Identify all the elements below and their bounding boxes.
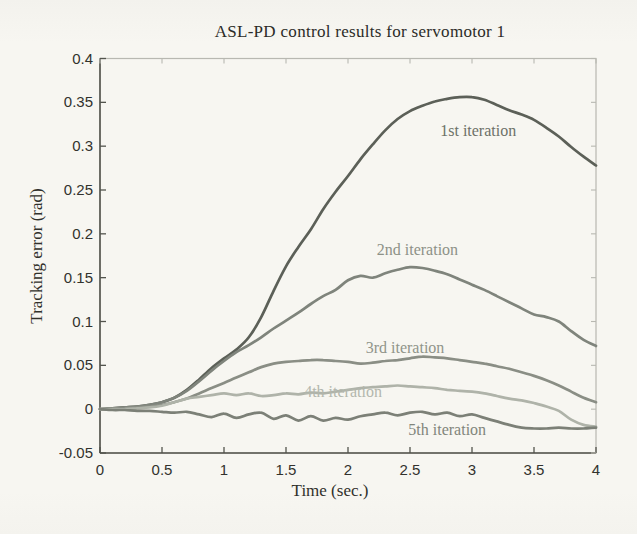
x-tick-label: 4 (592, 461, 600, 478)
x-tick-label: 0.5 (152, 461, 173, 478)
x-axis-label: Time (sec.) (292, 481, 369, 500)
x-tick-label: 3 (468, 461, 476, 478)
y-tick-label: 0.2 (72, 225, 93, 242)
series-label-2nd-iteration: 2nd iteration (377, 241, 458, 258)
y-tick-label: -0.05 (59, 444, 93, 461)
y-tick-label: 0 (85, 400, 93, 417)
series-curve-5th-iteration (100, 409, 596, 428)
x-tick-label: 3.5 (524, 461, 545, 478)
plot-area: 00.511.522.533.54-0.0500.050.10.150.20.2… (59, 50, 600, 479)
y-tick-label: 0.05 (64, 356, 93, 373)
y-tick-label: 0.3 (72, 137, 93, 154)
x-tick-label: 2.5 (400, 461, 421, 478)
y-tick-label: 0.1 (72, 313, 93, 330)
series-label-1st-iteration: 1st iteration (440, 122, 516, 139)
y-tick-label: 0.15 (64, 269, 93, 286)
x-tick-label: 2 (344, 461, 352, 478)
series-label-5th-iteration: 5th iteration (408, 421, 486, 438)
chart-title: ASL-PD control results for servomotor 1 (215, 22, 506, 41)
tracking-error-chart: 00.511.522.533.54-0.0500.050.10.150.20.2… (0, 0, 637, 534)
y-tick-label: 0.35 (64, 93, 93, 110)
x-tick-label: 0 (96, 461, 104, 478)
y-tick-label: 0.25 (64, 181, 93, 198)
x-tick-label: 1.5 (276, 461, 297, 478)
scanned-figure-page: 00.511.522.533.54-0.0500.050.10.150.20.2… (0, 0, 637, 534)
y-axis-label: Tracking error (rad) (27, 188, 46, 323)
series-label-4th-iteration: 4th iteration (304, 383, 382, 400)
series-label-3rd-iteration: 3rd iteration (366, 339, 445, 356)
x-tick-label: 1 (220, 461, 228, 478)
y-tick-label: 0.4 (72, 50, 93, 67)
